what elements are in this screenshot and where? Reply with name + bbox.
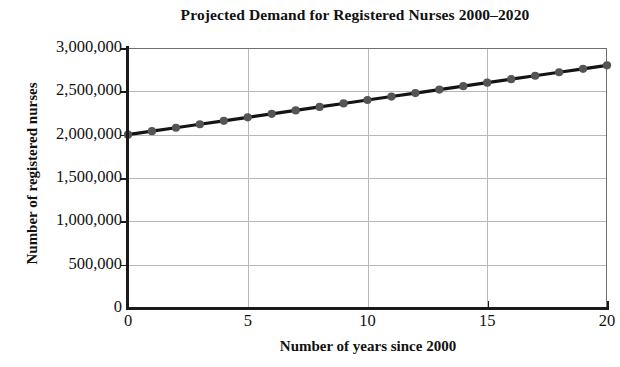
series-markers [124, 61, 611, 139]
data-series-nurses [128, 48, 607, 308]
data-point [244, 113, 252, 121]
data-point [172, 124, 180, 132]
data-point [507, 75, 515, 83]
y-tick-label: 0 [2, 299, 122, 316]
data-point [459, 82, 467, 90]
x-tick-label: 5 [228, 312, 268, 330]
chart-title: Projected Demand for Registered Nurses 2… [100, 6, 610, 24]
data-point [316, 103, 324, 111]
plot-area [128, 48, 607, 308]
y-tick-label: 2,500,000 [2, 82, 122, 99]
data-point [363, 96, 371, 104]
y-tick-label: 1,500,000 [2, 169, 122, 186]
y-tick-label: 3,000,000 [2, 39, 122, 56]
data-point [220, 117, 228, 125]
data-point [148, 127, 156, 135]
data-point [483, 79, 491, 87]
data-point [531, 72, 539, 80]
data-point [268, 110, 276, 118]
y-tick-label: 500,000 [2, 256, 122, 273]
y-axis-line [126, 46, 129, 310]
chart-figure: Projected Demand for Registered Nurses 2… [0, 0, 620, 367]
data-point [387, 92, 395, 100]
x-tick-label: 10 [348, 312, 388, 330]
x-tick-label: 0 [108, 312, 148, 330]
data-point [435, 86, 443, 94]
data-point [196, 120, 204, 128]
x-axis-line [126, 307, 609, 310]
data-point [339, 99, 347, 107]
y-tick-label: 2,000,000 [2, 126, 122, 143]
data-point [292, 106, 300, 114]
data-point [555, 68, 563, 76]
y-tick-label: 1,000,000 [2, 212, 122, 229]
data-point [411, 89, 419, 97]
data-point [579, 65, 587, 73]
x-tick-label: 20 [587, 312, 620, 330]
x-axis-title: Number of years since 2000 [128, 338, 608, 355]
x-tick-label: 15 [467, 312, 507, 330]
data-point [603, 61, 611, 69]
